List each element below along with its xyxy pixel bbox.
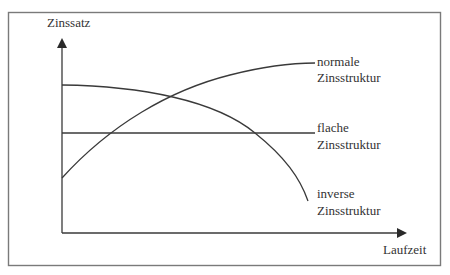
x-axis-label: Laufzeit (383, 242, 426, 258)
inverse-curve-label-line2: Zinsstruktur (317, 203, 381, 219)
inverse-curve-label-line1: inverse (317, 186, 355, 202)
y-axis-label: Zinssatz (47, 15, 90, 31)
normal-curve-label-line2: Zinsstruktur (317, 70, 381, 86)
flat-curve-label-line2: Zinsstruktur (317, 137, 381, 153)
yield-curve-diagram (0, 0, 450, 275)
flat-curve-label-line1: flache (317, 120, 349, 136)
normal-curve-label-line1: normale (317, 54, 360, 70)
